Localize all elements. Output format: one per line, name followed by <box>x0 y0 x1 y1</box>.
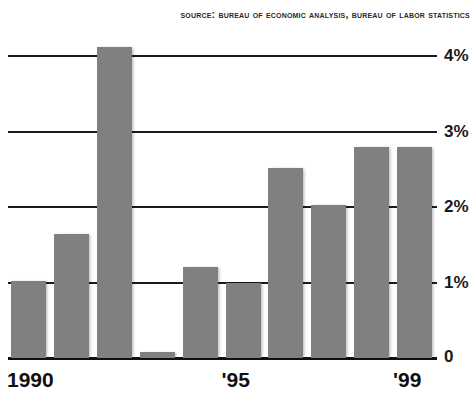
x-axis-tick-label-1990: 1990 <box>7 368 54 392</box>
gridline-4 <box>8 55 437 57</box>
y-axis-tick-label: 4% <box>444 46 469 66</box>
bar-1996 <box>268 168 303 358</box>
bar-1993 <box>140 352 175 358</box>
plot-area: 1%2%3%4%01990'95'99 <box>0 0 476 396</box>
y-axis-zero-label: 0 <box>444 347 453 367</box>
bar-1999 <box>397 147 432 358</box>
x-axis-tick-label-1995: '95 <box>222 368 250 392</box>
y-axis-tick-label: 3% <box>444 122 469 142</box>
y-axis-tick-label: 2% <box>444 197 469 217</box>
x-axis-tick-label-1999: '99 <box>393 368 421 392</box>
bar-1998 <box>354 147 389 358</box>
gridline-3 <box>8 131 437 133</box>
bar-1992 <box>97 47 132 358</box>
bar-1995 <box>226 283 261 358</box>
bar-1994 <box>183 267 218 358</box>
bar-1990 <box>11 281 46 358</box>
y-axis-tick-label: 1% <box>444 273 469 293</box>
bar-1991 <box>54 234 89 358</box>
chart-figure: Source: Bureau of Economic Analysis, Bur… <box>0 0 476 396</box>
bar-1997 <box>311 205 346 358</box>
